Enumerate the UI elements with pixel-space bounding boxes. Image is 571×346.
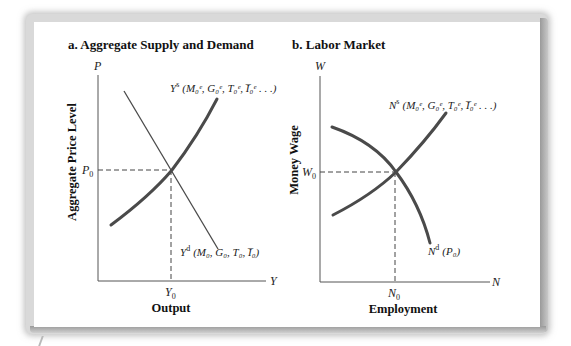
panel-b-labor-market: b. Labor Market W N Money Wage Employmen… xyxy=(287,37,501,316)
panel-a-p0-label: P0 xyxy=(81,163,93,179)
panel-a-title: a. Aggregate Supply and Demand xyxy=(68,37,255,52)
panel-a-aggregate-supply-demand: a. Aggregate Supply and Demand P Y Aggre… xyxy=(65,37,278,315)
panel-a-demand-curve-label: Yd(M₀, G₀, T₀, I̅₀) xyxy=(180,244,259,259)
diagram-canvas: a. Aggregate Supply and Demand P Y Aggre… xyxy=(0,0,571,346)
panel-b-demand-curve-label: Nd(P₀) xyxy=(427,243,461,258)
panel-b-y-axis-symbol: W xyxy=(315,59,326,73)
panel-b-title: b. Labor Market xyxy=(292,37,386,52)
panel-b-x-axis-label: Employment xyxy=(369,302,439,316)
panel-b-supply-curve-label: Ns(M₀ᵉ, G₀ᵉ, T₀ᵉ, I̅₀ᵉ . . .) xyxy=(388,97,497,112)
panel-b-x-axis-symbol: N xyxy=(491,275,501,289)
panel-b-w0-label: W0 xyxy=(302,165,316,181)
panel-a-x-axis-symbol: Y xyxy=(270,274,278,288)
panel-b-n0-label: N0 xyxy=(387,286,400,302)
panel-a-y0-label: Y0 xyxy=(165,285,176,301)
panel-a-y-axis-symbol: P xyxy=(93,59,102,73)
panel-a-supply-curve-label: Ys(M₀ᵉ, G₀ᵉ, T₀ᵉ, I̅₀ᵉ . . .) xyxy=(170,80,277,95)
panel-a-y-axis-label: Aggregate Price Level xyxy=(65,103,79,221)
panel-b-y-axis-label: Money Wage xyxy=(287,125,301,195)
panel-a-x-axis-label: Output xyxy=(152,301,192,315)
panel-a-aggregate-supply-curve xyxy=(111,99,217,225)
